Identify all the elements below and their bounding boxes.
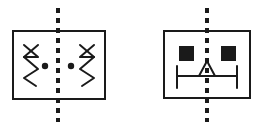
right-filled-square: [221, 46, 236, 61]
left-filled-square: [179, 46, 194, 61]
left-dot: [42, 63, 48, 69]
diagram-root: Symmetry Symbols Diagram: [0, 0, 267, 130]
right-dot: [68, 63, 74, 69]
diagram-canvas: [0, 0, 267, 130]
